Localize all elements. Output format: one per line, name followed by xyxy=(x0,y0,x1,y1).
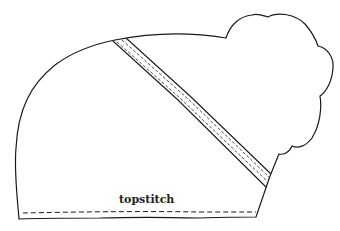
topstitch-label: topstitch xyxy=(119,193,174,206)
hat-outline xyxy=(15,14,333,219)
